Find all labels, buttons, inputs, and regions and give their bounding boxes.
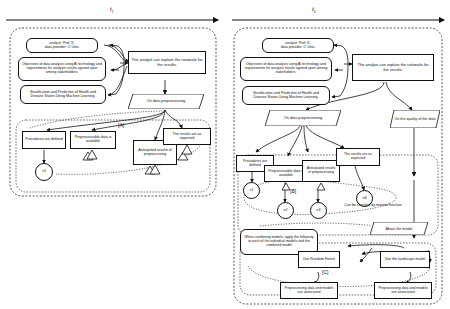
goal-random-forest-t2: Use Random Forest [298,251,340,268]
goal-anticipated-results-t2: Anticipated results of preprocessing [302,160,340,182]
context-objectives-t2: Objectives of data analysis using AI tec… [240,57,332,81]
goal-results-expected-t1: The results are as expected [163,128,211,145]
context-analyst-t2: analyst: Prof. K. data provider: O Univ. [262,38,334,53]
goal-rationale-t2: The analyst can explain the rationale fo… [352,54,434,81]
context-analyst-t1: analyst: Prof. K. data provider: O Univ. [26,38,98,53]
evidence-e1-t1: e1 [35,163,53,181]
note-monitor-function-t2: Can be checked by monitor function [344,200,402,212]
time-label-t1: t1 [110,6,113,14]
annotation-b: [B] [290,188,296,194]
context-title-t1: Stratification and Prediction of Health … [20,85,106,104]
evidence-e3-t2: e3 [310,202,327,219]
strategy-about-model-t2: About the model [370,222,428,235]
goal-procedures-t1: Procedures are defined [22,131,66,149]
context-objectives-t1: Objectives of data analysis using AI tec… [18,57,106,81]
figure-root: t1 t2 analyst: Prof. K. data provider: O… [0,0,450,309]
goal-preprocessable-data-t1: Preprocessable data is available [70,131,116,149]
evidence-e1-t2: e1 [243,182,260,199]
goal-preprocessing-assoc-left-t2: Preprocessing data and models are associ… [280,282,338,299]
annotation-c: [C] [322,269,328,275]
annotation-a: [A] [118,122,124,128]
goal-preprocessing-assoc-right-t2: Preprocessing data and models are associ… [374,282,432,299]
time-label-t2: t2 [312,6,315,14]
goal-rationale-t1: The analyst can explain the rationale fo… [128,51,206,74]
goal-landscape-model-t2: Use the landscape model [380,251,430,268]
context-title-t2: Stratification and Prediction of Health … [242,86,330,105]
strategy-preprocessing-t2: On data preprocessing [265,110,341,126]
strategy-data-quality-t2: On the quality of the data [390,110,440,128]
strategy-preprocessing-t1: On data preprocessing [128,94,204,109]
evidence-e2-t2: e2 [277,202,294,219]
goal-results-expected-t2: The results are as expected [336,148,380,166]
